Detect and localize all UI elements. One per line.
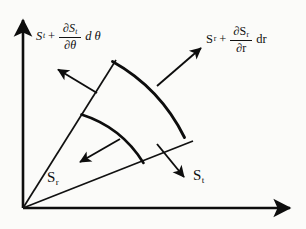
arrow-tangential-outer — [58, 70, 97, 94]
tangential-stress-subscript: t — [201, 175, 204, 185]
upper-radial-line — [23, 60, 116, 208]
label-tangential-increment: St + ∂St ∂θ d θ — [36, 22, 101, 51]
tangential-base-subscript: t — [43, 32, 46, 40]
label-radial-stress: Sr — [47, 170, 59, 187]
tangential-fraction: ∂St ∂θ — [59, 22, 81, 51]
radial-base: S — [206, 33, 213, 46]
radial-differential: dr — [256, 33, 266, 46]
arrow-radial-inner — [80, 139, 120, 162]
label-radial-increment: Sr + ∂Sr ∂r dr — [206, 25, 267, 54]
radial-operator: + — [219, 33, 226, 46]
stress-arrows — [58, 48, 201, 177]
label-tangential-stress: St — [193, 168, 204, 185]
polar-stress-element-figure: St + ∂St ∂θ d θ Sr + ∂Sr ∂r dr Sr St — [0, 0, 306, 229]
radial-numerator: ∂Sr — [232, 25, 251, 40]
tangential-differential: d θ — [85, 30, 101, 43]
tangential-denominator: ∂θ — [62, 38, 78, 51]
radial-base-subscript: r — [213, 35, 216, 43]
outer-arc — [113, 62, 185, 138]
radial-denominator: ∂r — [234, 41, 248, 54]
arrow-radial-outer — [157, 48, 201, 86]
tangential-numerator: ∂St — [61, 22, 79, 37]
radial-fraction: ∂Sr ∂r — [230, 25, 252, 54]
radial-stress-subscript: r — [55, 177, 58, 187]
arrow-tangential-inner — [157, 144, 184, 177]
tangential-operator: + — [48, 30, 55, 43]
